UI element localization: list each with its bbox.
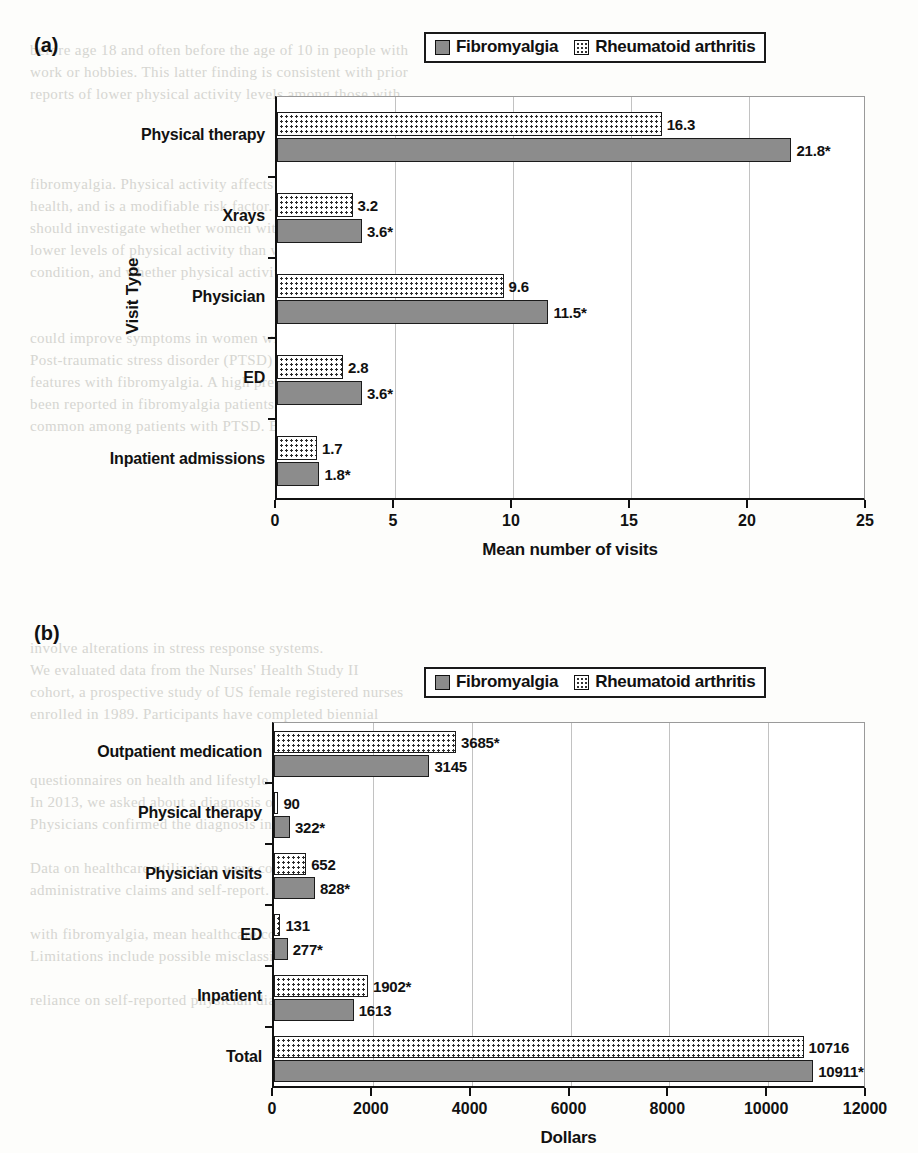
bar-fibromyalgia	[274, 1060, 813, 1082]
x-axis-tick-label: 12000	[843, 1100, 888, 1118]
x-axis-tick-label: 4000	[452, 1100, 488, 1118]
category-label: Physical therapy	[0, 804, 262, 822]
category-label: Outpatient medication	[0, 743, 262, 761]
gridline	[669, 723, 670, 1086]
x-axis-title-b: Dollars	[272, 1128, 865, 1148]
bar-fibromyalgia	[274, 938, 288, 960]
x-axis-tick	[370, 1088, 372, 1096]
bar-rheumatoid-arthritis	[274, 731, 456, 753]
x-axis-tick-label: 0	[268, 1100, 277, 1118]
x-axis-tick-label: 6000	[551, 1100, 587, 1118]
x-axis-tick-label: 10000	[744, 1100, 789, 1118]
bar-fibromyalgia	[274, 816, 290, 838]
chart-panel-b: 3685*314590322*652828*131277*1902*161310…	[0, 0, 918, 1153]
bar-rheumatoid-arthritis	[274, 853, 306, 875]
bar-value-label: 3685*	[461, 735, 499, 750]
plot-area-b: 3685*314590322*652828*131277*1902*161310…	[272, 722, 865, 1088]
bar-value-label: 10911*	[818, 1064, 864, 1079]
bar-value-label: 1613	[359, 1003, 392, 1018]
bar-value-label: 828*	[320, 881, 350, 896]
x-axis-tick	[271, 1088, 273, 1096]
category-label: Total	[0, 1048, 262, 1066]
bar-value-label: 1902*	[373, 979, 411, 994]
gridline	[571, 723, 572, 1086]
x-axis-tick-label: 8000	[650, 1100, 686, 1118]
bar-value-label: 652	[311, 857, 335, 872]
bar-rheumatoid-arthritis	[274, 975, 368, 997]
category-label: ED	[0, 926, 262, 944]
y-axis-tick	[265, 782, 273, 784]
bar-value-label: 10716	[809, 1040, 850, 1055]
figure-page: before age 18 and often before the age o…	[0, 0, 918, 1153]
bar-fibromyalgia	[274, 755, 429, 777]
gridline	[373, 723, 374, 1086]
bar-value-label: 131	[285, 918, 309, 933]
y-axis-tick	[265, 1026, 273, 1028]
bar-value-label: 277*	[293, 942, 323, 957]
gridline	[472, 723, 473, 1086]
x-axis-tick	[469, 1088, 471, 1096]
bar-rheumatoid-arthritis	[274, 914, 280, 936]
bar-value-label: 90	[283, 796, 299, 811]
x-axis-tick	[765, 1088, 767, 1096]
bar-fibromyalgia	[274, 877, 315, 899]
category-label: Inpatient	[0, 987, 262, 1005]
bar-value-label: 3145	[434, 759, 467, 774]
y-axis-tick	[265, 965, 273, 967]
y-axis-tick	[265, 904, 273, 906]
x-axis-tick	[666, 1088, 668, 1096]
category-label: Physician visits	[0, 865, 262, 883]
gridline	[768, 723, 769, 1086]
bar-rheumatoid-arthritis	[274, 1036, 804, 1058]
y-axis-tick	[265, 843, 273, 845]
x-axis-tick-label: 2000	[353, 1100, 389, 1118]
bar-rheumatoid-arthritis	[274, 792, 278, 814]
x-axis-tick	[568, 1088, 570, 1096]
bar-fibromyalgia	[274, 999, 354, 1021]
bar-value-label: 322*	[295, 820, 325, 835]
x-axis-tick	[864, 1088, 866, 1096]
